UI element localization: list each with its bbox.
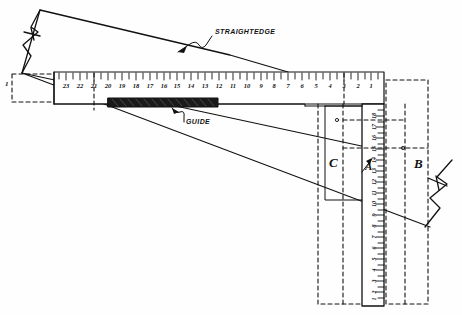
vertical-ruler-number: 16 [371, 135, 377, 141]
zone-label-c: C [329, 155, 338, 171]
horizontal-ruler-number: 21 [91, 82, 98, 89]
vertical-ruler-number: 1 [371, 298, 377, 301]
straightedge-top-edge [22, 10, 288, 73]
horizontal-ruler-number: 20 [105, 82, 112, 89]
vertical-ruler-number: 7 [371, 236, 377, 239]
horizontal-ruler-number: 22 [77, 82, 84, 89]
horizontal-ruler-number: 16 [161, 82, 168, 89]
horizontal-ruler-number: 13 [202, 82, 209, 89]
technical-drawing [0, 0, 462, 315]
vertical-ruler-number: 13 [371, 168, 377, 174]
zone-label-b: B [414, 156, 423, 172]
vertical-ruler-number: 12 [371, 179, 377, 185]
vertical-ruler-number: 4 [371, 269, 377, 272]
horizontal-ruler-number: 15 [174, 82, 181, 89]
horizontal-ruler-number: 7 [286, 82, 289, 89]
horizontal-ruler-number: 1 [369, 82, 372, 89]
vertical-ruler-number: 5 [371, 258, 377, 261]
horizontal-ruler-number: 2 [356, 82, 359, 89]
callout-guide: GUIDE [186, 118, 210, 125]
vertical-ruler-number: 6 [371, 247, 377, 250]
horizontal-ruler-number: 23 [63, 82, 70, 89]
horizontal-ruler-number: 6 [300, 82, 303, 89]
vertical-ruler-number: 9 [371, 214, 377, 217]
break-symbol-right [425, 160, 452, 227]
leader-arrow-guide [172, 108, 179, 114]
horizontal-ruler-number: 12 [216, 82, 223, 89]
left-edge-number: 1 [5, 80, 9, 88]
horizontal-ruler-number: 10 [244, 82, 251, 89]
figure-canvas: STRAIGHTEDGE GUIDE C B A 1 2322212019181… [0, 0, 462, 315]
callout-straightedge: STRAIGHTEDGE [215, 28, 275, 35]
vertical-ruler-number: 11 [371, 190, 377, 196]
vertical-ruler-number: 17 [371, 124, 377, 130]
horizontal-ruler-number: 17 [147, 82, 154, 89]
dashed-zone-b-right [386, 80, 428, 304]
vertical-ruler-number: 18 [371, 113, 377, 119]
intersection-marker-1 [335, 118, 338, 121]
vertical-ruler-number: 14 [371, 157, 377, 163]
horizontal-ruler-number: 9 [259, 82, 262, 89]
dashed-zone-c-left [318, 104, 360, 304]
dashed-zone-b-left [386, 80, 428, 304]
vertical-ruler-ticks [376, 110, 384, 298]
vertical-ruler-number: 15 [371, 146, 377, 152]
leader-arrow-straightedge [178, 46, 187, 53]
horizontal-ruler-number: 11 [230, 82, 236, 89]
vertical-ruler-number: 10 [371, 201, 377, 207]
vertical-ruler-number: 2 [371, 291, 377, 294]
horizontal-ruler-number: 19 [119, 82, 126, 89]
horizontal-ruler-number: 5 [314, 82, 317, 89]
horizontal-ruler-number: 4 [328, 82, 331, 89]
horizontal-ruler-number: 14 [188, 82, 195, 89]
horizontal-ruler-number: 8 [272, 82, 275, 89]
horizontal-ruler-number: 3 [342, 82, 345, 89]
vertical-ruler-number: 3 [371, 280, 377, 283]
horizontal-ruler-number: 18 [133, 82, 140, 89]
vertical-ruler-number: 8 [371, 225, 377, 228]
